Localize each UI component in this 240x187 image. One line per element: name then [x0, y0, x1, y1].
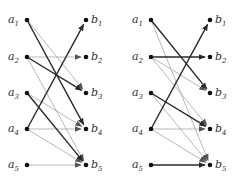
label-a1: a1	[132, 13, 143, 28]
node-b2	[84, 55, 89, 60]
edge-a4-b5	[27, 129, 82, 162]
edge-a3-b4	[27, 93, 82, 126]
node-b3	[208, 91, 213, 96]
label-b1: b1	[91, 13, 103, 28]
left-graph: a1b1a2b2a3b3a4b4a5b5	[8, 13, 103, 173]
node-a1	[25, 18, 30, 23]
label-b2: b2	[91, 50, 103, 65]
label-a3: a3	[8, 86, 20, 101]
node-a4	[25, 127, 30, 132]
label-b4: b4	[91, 122, 103, 137]
node-a4	[149, 127, 154, 132]
label-b5: b5	[91, 158, 103, 173]
node-b4	[208, 127, 213, 132]
node-b4	[84, 127, 89, 132]
node-a5	[25, 163, 30, 168]
node-b1	[208, 18, 213, 23]
edge-a4-b1	[27, 24, 84, 129]
node-a3	[149, 91, 154, 96]
label-a5: a5	[8, 158, 20, 173]
label-a4: a4	[8, 122, 19, 137]
edge-a2-b3	[151, 57, 206, 90]
label-a2: a2	[8, 50, 20, 65]
label-b2: b2	[215, 50, 227, 65]
label-a3: a3	[132, 86, 144, 101]
right-graph: a1b1a2b2a3b3a4b4a5b5	[132, 13, 227, 173]
label-a5: a5	[132, 158, 144, 173]
label-b5: b5	[215, 158, 227, 173]
label-a1: a1	[8, 13, 19, 28]
node-b1	[84, 18, 89, 23]
bipartite-graph-diagram: a1b1a2b2a3b3a4b4a5b5 a1b1a2b2a3b3a4b4a5b…	[0, 0, 240, 187]
edge-a3-b4	[151, 93, 206, 126]
edge-a3-b5	[27, 93, 83, 161]
edge-a2-b3	[27, 57, 82, 90]
node-b3	[84, 91, 89, 96]
label-a2: a2	[132, 50, 144, 65]
label-b3: b3	[215, 86, 227, 101]
node-b5	[84, 163, 89, 168]
node-a3	[25, 91, 30, 96]
label-b1: b1	[215, 13, 227, 28]
label-a4: a4	[132, 122, 143, 137]
node-a2	[25, 55, 30, 60]
node-b5	[208, 163, 213, 168]
node-a2	[149, 55, 154, 60]
edge-a3-b5	[151, 93, 207, 161]
label-b4: b4	[215, 122, 227, 137]
node-a5	[149, 163, 154, 168]
node-a1	[149, 18, 154, 23]
node-b2	[208, 55, 213, 60]
label-b3: b3	[91, 86, 103, 101]
edge-a1-b5	[151, 20, 208, 160]
